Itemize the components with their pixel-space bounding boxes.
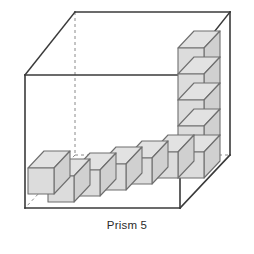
figure-caption: Prism 5	[0, 218, 254, 232]
prism-edge-top-left-depth	[25, 12, 75, 75]
figure-root: Prism 5	[0, 0, 254, 254]
cube-row-group	[28, 135, 194, 202]
prism-diagram-svg	[0, 0, 254, 254]
cube-face-front	[28, 168, 54, 194]
